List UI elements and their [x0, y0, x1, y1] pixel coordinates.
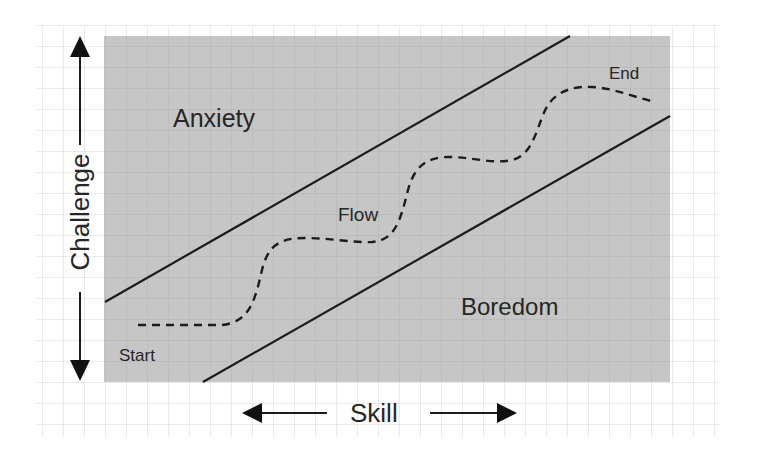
- path-start-label: Start: [119, 347, 155, 364]
- flow-diagram-canvas: [0, 0, 757, 454]
- region-label-boredom: Boredom: [461, 295, 558, 319]
- y-axis-label-challenge: Challenge: [67, 153, 93, 270]
- region-label-flow: Flow: [338, 205, 378, 224]
- shaded-diagram-area: [104, 36, 670, 382]
- region-label-anxiety: Anxiety: [173, 106, 255, 131]
- x-axis-label-skill: Skill: [350, 400, 398, 426]
- path-end-label: End: [609, 65, 639, 82]
